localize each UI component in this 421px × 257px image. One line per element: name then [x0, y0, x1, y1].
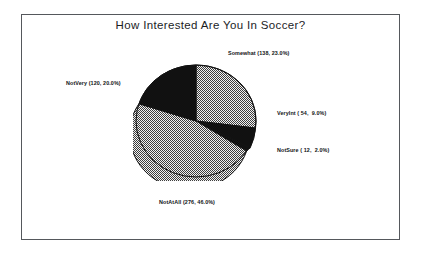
pie-label-somewhat: Somewhat (138, 23.0%) — [228, 51, 289, 56]
pie-label-notvery: NotVery (120, 20.0%) — [66, 81, 121, 86]
pie-chart-plot-area: Somewhat (138, 23.0%) VeryInt ( 54, 9.0%… — [22, 15, 401, 241]
pie-label-veryint: VeryInt ( 54, 9.0%) — [277, 111, 326, 116]
chart-frame: How Interested Are You In Soccer? — [21, 14, 400, 240]
pie-svg — [133, 61, 259, 181]
pie-label-notsure: NotSure ( 12, 2.0%) — [277, 148, 329, 153]
pie-label-notatall: NotAtAll (276, 46.0%) — [159, 200, 215, 205]
pie-slice-somewhat[interactable] — [196, 65, 256, 128]
